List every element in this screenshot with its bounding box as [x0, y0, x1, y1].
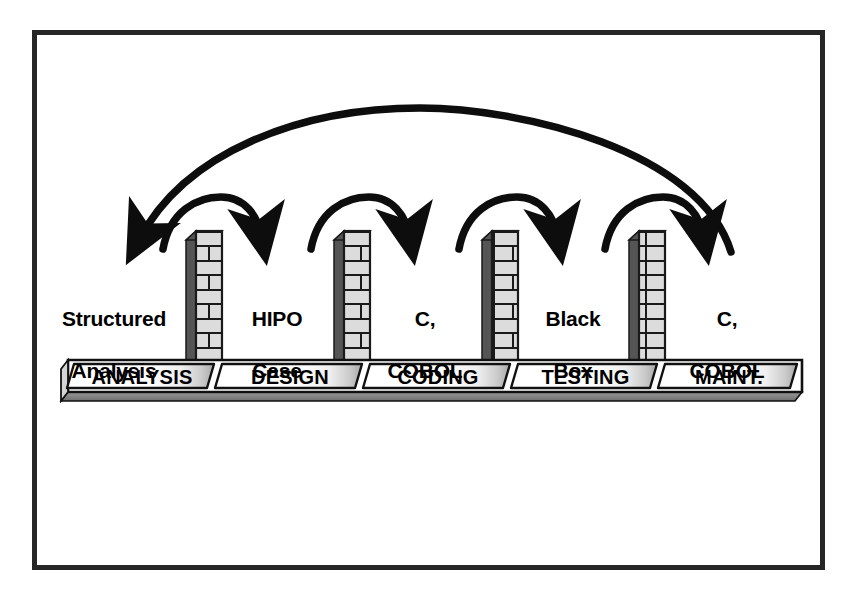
phase-label-testing: TESTING	[516, 366, 655, 388]
tool-label-design-line1: HIPO	[224, 306, 330, 332]
phase-label-design: DESIGN	[220, 366, 360, 388]
phase-label-coding: CODING	[368, 366, 508, 388]
tool-label-analysis: Structured Analysis	[44, 280, 184, 410]
tool-label-design: HIPO Case	[224, 280, 330, 410]
tool-label-testing: Black Box	[520, 280, 626, 410]
phase-label-analysis: ANALYSIS	[72, 366, 212, 388]
tool-label-coding: C, COBOL	[372, 280, 478, 410]
phase-label-maint: MAINT.	[663, 366, 795, 388]
tool-label-maintenance: C, COBOL	[668, 280, 786, 410]
diagram-canvas: Structured Analysis HIPO Case C, COBOL B…	[0, 0, 856, 590]
tool-label-coding-line1: C,	[372, 306, 478, 332]
tool-label-maintenance-line1: C,	[668, 306, 786, 332]
tool-label-analysis-line1: Structured	[44, 306, 184, 332]
tool-label-testing-line1: Black	[520, 306, 626, 332]
